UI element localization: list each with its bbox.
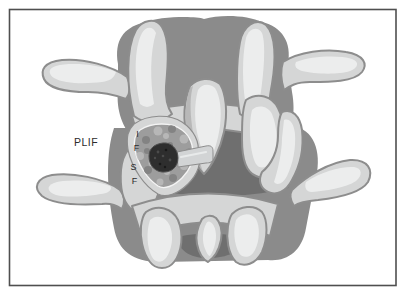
superior-facet-label-f: F (132, 176, 138, 186)
spine-illustration: PLIF I F S F (0, 0, 406, 296)
figure-canvas: PLIF I F S F (0, 0, 406, 296)
superior-facet-label-s: S (130, 162, 136, 172)
inferior-facet-label-f: F (134, 143, 140, 153)
inferior-facet-label-i: I (136, 129, 139, 139)
disc-space-hole (149, 143, 178, 172)
plif-label: PLIF (74, 136, 98, 148)
